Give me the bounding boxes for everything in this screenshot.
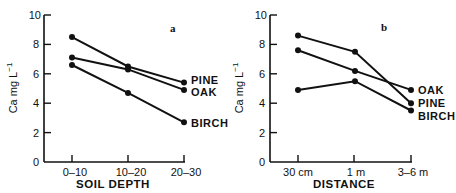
y-ticks [44,15,51,133]
x-axis-title: SOIL DEPTH [76,178,150,190]
x-tick-label: 3–6 m [398,166,429,178]
x-ticks [72,155,184,162]
y-axis-title: Ca mg L−1 [5,62,19,113]
series-label-oak: OAK [418,84,444,96]
y-tick-label: 4 [259,97,265,109]
y-axis-title: Ca mg L−1 [231,62,245,113]
x-tick-label: 30 cm [283,166,313,178]
panel-label-a: a [170,22,176,34]
x-tick-label: 0–10 [63,166,87,178]
y-tick-label: 6 [33,68,39,80]
y-tick-label: 8 [33,38,39,50]
x-tick-label: 10–20 [116,166,147,178]
x-tick-label: 1 m [347,166,365,178]
y-tick-label: 10 [255,9,267,21]
x-ticks [298,155,411,162]
series-label-pine: PINE [191,74,219,86]
series-oak [69,55,187,93]
series-birch [295,78,414,113]
y-tick-label: 0 [33,156,39,168]
y-tick-label: 8 [259,38,265,50]
panel-b: 0 2 4 6 8 10 30 cm 1 m 3–6 m DISTANCE Ca… [231,9,455,190]
y-ticks [270,15,277,133]
series-label-birch: BIRCH [191,117,228,129]
panel-label-b: b [381,21,387,33]
y-tick-label: 10 [29,9,41,21]
x-tick-label: 20–30 [171,166,202,178]
y-tick-label: 4 [33,97,39,109]
figure: 0 2 4 6 8 10 0–10 10–20 20–30 SOIL DEPTH… [0,0,456,193]
y-tick-label: 0 [259,156,265,168]
y-tick-label: 2 [259,127,265,139]
panel-a: 0 2 4 6 8 10 0–10 10–20 20–30 SOIL DEPTH… [5,9,228,190]
y-tick-label: 6 [259,68,265,80]
x-axis-title: DISTANCE [313,178,375,190]
series-label-pine: PINE [418,97,446,109]
y-tick-label: 2 [33,127,39,139]
series-label-oak: OAK [191,86,217,98]
series-label-birch: BIRCH [418,110,455,122]
